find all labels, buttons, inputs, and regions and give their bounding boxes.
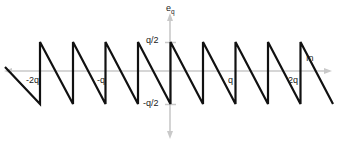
x-marker-label-minus-q: -q <box>97 76 105 85</box>
x-axis-arrow-right-icon <box>324 68 332 74</box>
x-marker-label-2q: 2q <box>288 76 298 85</box>
y-axis-arrow-bottom-icon <box>167 131 173 139</box>
sawtooth-plot <box>0 0 339 141</box>
y-axis-label-subscript: q <box>171 8 175 15</box>
sawtooth-trace <box>5 42 333 104</box>
x-axis-label: In <box>306 54 314 63</box>
x-marker-label-minus-2q: -2q <box>26 76 39 85</box>
y-axis-label: eq <box>166 4 175 15</box>
y-tick-label-positive: q/2 <box>146 36 159 45</box>
quantization-error-figure: eq In q/2 -q/2 -2q -q q 2q <box>0 0 339 141</box>
y-tick-label-negative: -q/2 <box>143 99 159 108</box>
x-marker-label-q: q <box>228 76 233 85</box>
sawtooth-waveform <box>5 42 333 104</box>
